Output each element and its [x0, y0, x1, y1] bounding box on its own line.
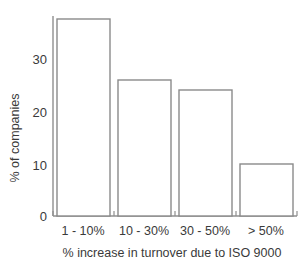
y-tick-label-20: 20 [33, 105, 47, 120]
y-tick-label-10: 10 [33, 158, 47, 173]
x-category-label-0: 1 - 10% [61, 224, 104, 238]
x-category-label-3: > 50% [248, 224, 284, 238]
x-category-label-1: 10 - 30% [119, 224, 169, 238]
y-tick-label-0: 0 [40, 209, 47, 224]
bar-over-50-percent [240, 164, 293, 216]
x-axis-title: % increase in turnover due to ISO 9000 [63, 246, 282, 260]
bar-1-10-percent [57, 19, 110, 216]
chart-canvas: % of companies 30 20 10 0 1 - 10% 10 - 3… [0, 0, 308, 266]
bar-10-30-percent [118, 80, 171, 216]
y-tick-label-30: 30 [33, 52, 47, 67]
y-axis-title: % of companies [8, 94, 22, 183]
x-category-label-2: 30 - 50% [180, 224, 230, 238]
bar-30-50-percent [179, 90, 232, 216]
bar-chart-figure: % of companies 30 20 10 0 1 - 10% 10 - 3… [0, 0, 308, 266]
